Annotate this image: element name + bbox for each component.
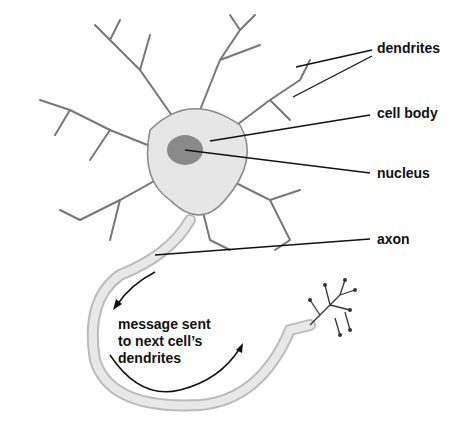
label-axon: axon: [377, 231, 410, 247]
axon-terminals: [310, 280, 355, 335]
label-nucleus: nucleus: [377, 165, 430, 181]
message-line-1: message sent: [118, 316, 211, 333]
label-cell-body: cell body: [377, 105, 438, 121]
message-line-3: dendrites: [118, 350, 211, 367]
message-line-2: to next cell’s: [118, 333, 211, 350]
message-caption: message sent to next cell’s dendrites: [118, 316, 211, 367]
neuron-illustration: [0, 0, 466, 441]
label-dendrites: dendrites: [377, 40, 440, 56]
cell-body-shape: [148, 109, 248, 215]
neuron-diagram: dendrites cell body nucleus axon message…: [0, 0, 466, 441]
